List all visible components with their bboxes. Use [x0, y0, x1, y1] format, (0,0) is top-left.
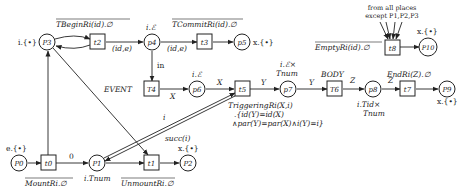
arc-in-t8-3	[393, 22, 395, 39]
place-p10: P10	[419, 38, 437, 56]
svg-text:p4: p4	[148, 39, 157, 47]
arc-p3-t1	[53, 48, 148, 155]
svg-text:P9: P9	[441, 86, 452, 94]
place-p4: p4	[144, 34, 160, 50]
t2-annotation: TBeginRi(id).∅	[56, 20, 113, 29]
svg-text:p8: p8	[369, 86, 378, 94]
svg-text:t7: t7	[404, 86, 412, 94]
t1-annotation: UnmountRi.∅	[121, 179, 174, 188]
arc-in-t8-4	[396, 22, 402, 39]
p1-annotation: i.Tnum	[84, 174, 111, 183]
svg-text:P3: P3	[41, 39, 52, 47]
svg-text:t2: t2	[94, 39, 102, 47]
arc-p3-t2	[55, 36, 90, 39]
arc-label-t0-p1: 0	[69, 152, 74, 161]
arc-label-p1-t5: i	[163, 113, 166, 122]
t3-annotation: TCommitRi(id).∅	[172, 20, 237, 29]
t5-annotation-3: ∧par(Y)=par(X)∧i(Y)=i}	[232, 119, 324, 128]
transition-t7: t7	[400, 81, 415, 96]
t8-note-2: except P1,P2,P3	[365, 12, 419, 20]
place-p0: P0	[11, 155, 27, 171]
transition-t8: t8	[385, 40, 400, 55]
p9-annotation: x.{•}	[437, 97, 458, 106]
svg-text:p6: p6	[193, 86, 202, 94]
arc-label-t5-p1: succ(i)	[165, 134, 190, 143]
svg-text:t3: t3	[201, 39, 209, 47]
p7-annotation-1: i.ℰ×	[280, 60, 296, 69]
arc-label-p6-t5: X	[216, 78, 223, 87]
arc-label-p8-t7: Z	[387, 76, 394, 85]
place-p3: P3	[39, 34, 55, 50]
T4-annotation: EVENT	[103, 85, 133, 94]
arc-label-T6-p8: Z	[349, 76, 356, 85]
p10-annotation: x.{•}	[417, 27, 438, 36]
place-p5: p5	[234, 34, 250, 50]
transition-t1: t1	[144, 155, 159, 170]
t0-annotation: MountRi.∅	[24, 179, 67, 188]
arc-label-p7-T6: Y	[309, 78, 315, 87]
transition-T6: T6	[327, 81, 342, 96]
svg-text:P10: P10	[421, 44, 435, 52]
place-p8: p8	[365, 81, 381, 97]
svg-text:p5: p5	[238, 39, 247, 47]
p8-annotation-1: i.Tid×	[357, 100, 380, 109]
svg-text:P2: P2	[182, 160, 193, 168]
p3-annotation: i.{•}	[18, 38, 37, 47]
t5-annotation-1: TriggeringRi(X,i)	[228, 101, 293, 110]
place-p1: P1	[89, 155, 105, 171]
arc-t2-p3	[56, 45, 90, 48]
arc-label-p4-t3: (id,e)	[167, 44, 187, 53]
svg-text:t5: t5	[239, 86, 247, 94]
p4-annotation: i.ℰ	[146, 23, 157, 32]
p7-annotation-2: Tnum	[276, 69, 298, 78]
p6-annotation: i.ℰ	[192, 70, 203, 79]
place-p9: P9	[439, 81, 455, 97]
svg-text:t1: t1	[148, 160, 155, 168]
arc-label-p4-T4: in	[157, 61, 164, 70]
arc-label-t5-p7: Y	[261, 78, 267, 87]
transition-T4: T4	[144, 81, 159, 96]
p5-annotation: x.{•}	[253, 38, 274, 47]
transition-t2: t2	[90, 34, 105, 49]
place-p7: p7	[280, 81, 296, 97]
transition-t5: t5	[235, 81, 250, 96]
place-p6: p6	[189, 81, 205, 97]
transition-t3: t3	[197, 34, 212, 49]
svg-text:P1: P1	[91, 160, 101, 168]
svg-text:T4: T4	[147, 86, 156, 94]
petri-net-diagram: P0 P1 P2 P3 p4 p5 p6 p7	[0, 0, 462, 196]
p8-annotation-2: Tnum	[363, 109, 385, 118]
t8-annotation: EmptyRi(id).∅	[314, 43, 370, 52]
svg-text:t0: t0	[45, 160, 53, 168]
svg-text:t8: t8	[389, 45, 397, 53]
svg-text:T6: T6	[330, 86, 340, 94]
t5-annotation-2: .{id(Y)=id(X)	[234, 110, 284, 119]
T6-annotation: BODY	[320, 70, 345, 79]
arc-label-t2-p4: (id,e)	[112, 44, 132, 53]
place-p2: P2	[180, 155, 196, 171]
arc-label-T4-p6: X	[169, 92, 176, 101]
t8-note-1: from all places	[368, 4, 417, 12]
transition-t0: t0	[41, 155, 56, 170]
svg-text:P0: P0	[13, 160, 24, 168]
svg-text:p7: p7	[284, 86, 293, 94]
p2-annotation: x.{•}	[178, 144, 199, 153]
arc-p1-t5	[104, 93, 235, 158]
annotations: e.{•} i.Tnum x.{•} i.{•} i.ℰ x.{•} i.ℰ i…	[6, 4, 458, 188]
p0-annotation: e.{•}	[6, 144, 27, 153]
